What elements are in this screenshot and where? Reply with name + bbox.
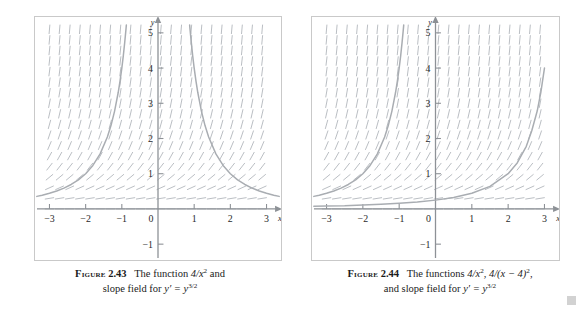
tick-label: 3 — [264, 213, 269, 224]
caption-line1-prefix: The function — [134, 268, 188, 279]
caption-line2-exponent: 3/2 — [487, 282, 496, 290]
tick-label: 2 — [228, 213, 233, 224]
tick-label: 3 — [542, 213, 547, 224]
tick-label: −1 — [394, 213, 405, 224]
caption-line1-exponent: 2 — [204, 267, 208, 275]
caption-comma: , — [484, 268, 487, 279]
y-axis-label: y — [150, 17, 155, 27]
figure-number: 2.44 — [381, 268, 399, 279]
tick-label: −1 — [117, 213, 128, 224]
tick-label: 0 — [149, 213, 154, 224]
caption-line2-exponent: 3/2 — [188, 282, 197, 290]
figure-number: 2.43 — [108, 268, 126, 279]
figure-label: Figure — [347, 268, 378, 279]
figure-caption-2-44: Figure 2.44 The functions 4/x2, 4/(x − 4… — [295, 266, 585, 296]
tick-label: 5 — [426, 27, 431, 38]
tick-label: −1 — [142, 239, 153, 250]
caption-line1-math-b: 4/(x − 4) — [489, 268, 526, 279]
slope-field-plot-right: −3−2−10123−112345xy — [312, 17, 559, 260]
y-axis-label: y — [427, 17, 432, 27]
caption-line1-suffix: and — [210, 268, 225, 279]
tick-label: −3 — [321, 213, 332, 224]
caption-line1-math-a: 4/x — [467, 268, 480, 279]
plot-frame-right: −3−2−10123−112345xy — [311, 16, 560, 261]
tick-label: 1 — [192, 213, 197, 224]
tick-label: 0 — [426, 213, 431, 224]
tick-label: 4 — [426, 63, 431, 74]
slope-field-segments-left — [45, 25, 267, 209]
tick-label: 4 — [148, 63, 153, 74]
tick-label: 3 — [426, 98, 431, 109]
caption-line1-prefix: The functions — [407, 268, 465, 279]
figure-page: −3−2−10123−112345xy Figure 2.43 The func… — [0, 0, 585, 318]
tick-label: 2 — [506, 213, 511, 224]
tick-label: 1 — [148, 168, 153, 179]
figure-caption-2-43: Figure 2.43 The function 4/x2 and slope … — [0, 266, 300, 296]
caption-line2-math: y′ = y — [463, 283, 487, 294]
x-axis-label: x — [277, 213, 281, 223]
tick-label: −3 — [44, 213, 55, 224]
tick-label: 1 — [426, 168, 431, 179]
axes-right — [314, 17, 559, 258]
plot-frame-left: −3−2−10123−112345xy — [34, 16, 282, 261]
tick-label: 5 — [148, 27, 153, 38]
slope-field-plot-left: −3−2−10123−112345xy — [35, 17, 281, 260]
tick-label: −2 — [80, 213, 91, 224]
page-corner-mark — [567, 296, 576, 305]
x-axis-label: x — [555, 213, 559, 223]
caption-line2-prefix: and slope field for — [384, 283, 461, 294]
slope-field-segments-right — [322, 25, 545, 209]
caption-line2-prefix: slope field for — [103, 283, 162, 294]
axes-left — [37, 17, 281, 258]
tick-label: −1 — [420, 239, 431, 250]
caption-comma-2: , — [530, 268, 533, 279]
tick-label: 2 — [148, 133, 153, 144]
tick-label: −2 — [358, 213, 369, 224]
figure-label: Figure — [75, 268, 106, 279]
tick-label: 3 — [148, 98, 153, 109]
tick-label: 1 — [469, 213, 474, 224]
caption-line1-math: 4/x — [191, 268, 204, 279]
tick-label: 2 — [426, 133, 431, 144]
caption-line2-math: y′ = y — [164, 283, 188, 294]
